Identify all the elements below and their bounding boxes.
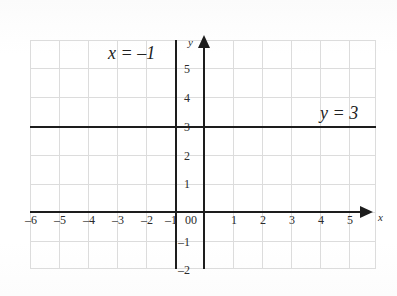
coordinate-plane	[30, 40, 376, 269]
x-tick-label: –6	[21, 214, 41, 226]
y-axis-line	[203, 47, 205, 269]
equation-label-vertical-line: x = –1	[108, 43, 155, 64]
y-tick-label: –1	[172, 236, 190, 248]
x-tick-label: 1	[224, 214, 244, 226]
graph-screenshot: –6 –5 –4 –3 –2 –1 0 1 2 3 4 5 5 4 3 2 1 …	[0, 0, 397, 296]
x-tick-label: 4	[311, 214, 331, 226]
x-tick-label: –4	[79, 214, 99, 226]
x-tick-label: –1	[161, 214, 181, 226]
x-tick-label: 2	[253, 214, 273, 226]
x-tick-label: –3	[108, 214, 128, 226]
x-axis-arrow-icon	[360, 206, 373, 218]
x-tick-label: 5	[340, 214, 360, 226]
x-tick-label: 3	[282, 214, 302, 226]
x-tick-label: –5	[50, 214, 70, 226]
x-axis-label: x	[378, 211, 383, 223]
y-tick-label: 2	[172, 150, 190, 162]
y-tick-label: 4	[172, 92, 190, 104]
y-tick-label: 3	[172, 121, 190, 133]
y-axis-label: y	[188, 36, 193, 48]
y-tick-label: –2	[172, 264, 190, 276]
axis-layer	[30, 40, 376, 269]
equation-label-horizontal-line: y = 3	[320, 103, 358, 124]
x-tick-label: –2	[137, 214, 157, 226]
y-tick-label: 5	[172, 63, 190, 75]
y-tick-label: 1	[172, 178, 190, 190]
y-axis-arrow-icon	[198, 35, 210, 48]
y-tick-label: 0	[185, 214, 203, 226]
